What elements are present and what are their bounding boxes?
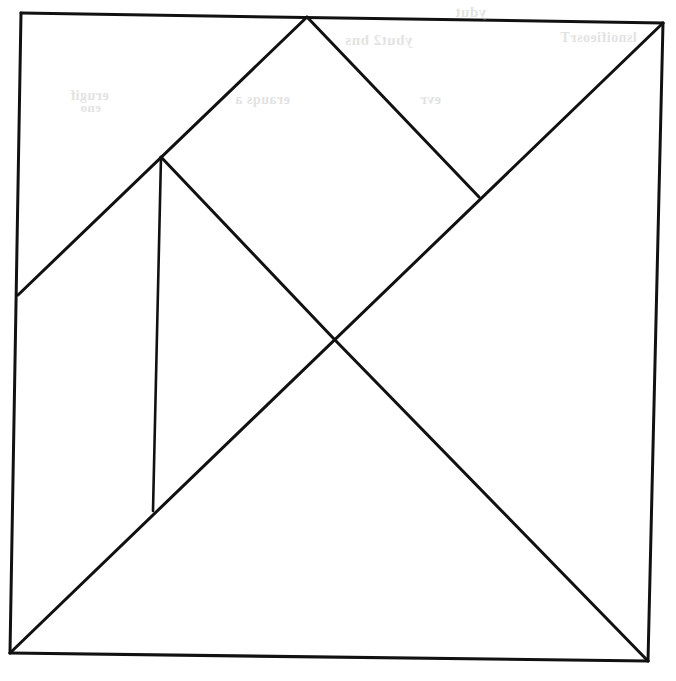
tangram-figure: ydutybut2 bnslsnoifieosrTerugiferauqs ae… [0,0,676,681]
paper-background [0,0,676,681]
tangram-line-drawing [0,0,676,681]
